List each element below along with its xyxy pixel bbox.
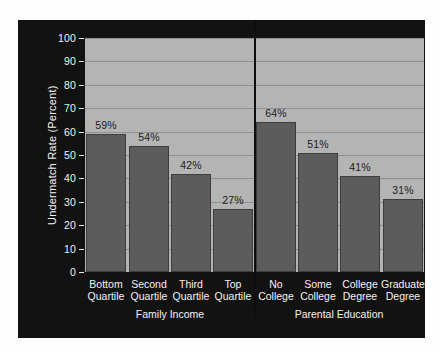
- bar-value-label: 27%: [205, 195, 261, 206]
- y-tick-label-0: 0: [70, 267, 76, 277]
- group-divider: [254, 20, 256, 318]
- plot-area: 59%54%42%27%64%51%41%31%: [85, 38, 424, 272]
- y-tick-mark-20: [79, 225, 84, 226]
- bar-value-label: 42%: [163, 160, 219, 171]
- y-tick-mark-10: [79, 249, 84, 250]
- bar-value-label: 41%: [332, 162, 388, 173]
- y-tick-label-90: 90: [64, 56, 76, 66]
- y-tick-mark-100: [79, 38, 84, 39]
- chart-figure: Undermatch Rate (Percent) 01020304050607…: [0, 0, 440, 352]
- y-tick-label-50: 50: [64, 150, 76, 160]
- x-tick-label-line-0: Graduate: [373, 278, 433, 290]
- chart-panel: Undermatch Rate (Percent) 01020304050607…: [18, 20, 425, 338]
- bar: [86, 134, 126, 272]
- y-tick-mark-30: [79, 202, 84, 203]
- bar-value-label: 59%: [78, 120, 134, 131]
- y-tick-mark-0: [79, 272, 84, 273]
- y-tick-mark-90: [79, 61, 84, 62]
- bar: [171, 174, 211, 272]
- bar-value-label: 64%: [248, 108, 304, 119]
- y-tick-label-30: 30: [64, 197, 76, 207]
- caption-partial: [40, 331, 430, 339]
- bar-value-label: 31%: [375, 185, 431, 196]
- y-tick-label-40: 40: [64, 173, 76, 183]
- y-tick-mark-70: [79, 108, 84, 109]
- group-label-2: Parental Education: [259, 308, 419, 320]
- y-tick-label-20: 20: [64, 220, 76, 230]
- bar-value-label: 54%: [121, 132, 177, 143]
- bar: [383, 199, 423, 272]
- bar: [340, 176, 380, 272]
- y-tick-label-100: 100: [58, 33, 76, 43]
- y-tick-mark-50: [79, 155, 84, 156]
- bar-value-label: 51%: [290, 139, 346, 150]
- y-tick-mark-80: [79, 85, 84, 86]
- y-tick-label-60: 60: [64, 127, 76, 137]
- y-tick-label-70: 70: [64, 103, 76, 113]
- y-tick-label-10: 10: [64, 244, 76, 254]
- y-axis-title: Undermatch Rate (Percent): [46, 86, 58, 226]
- y-tick-mark-60: [79, 132, 84, 133]
- y-tick-mark-40: [79, 178, 84, 179]
- bar: [213, 209, 253, 272]
- group-label-1: Family Income: [90, 308, 250, 320]
- x-tick-label: GraduateDegree: [373, 278, 433, 302]
- y-tick-label-80: 80: [64, 80, 76, 90]
- x-tick-label-line-1: Degree: [373, 290, 433, 302]
